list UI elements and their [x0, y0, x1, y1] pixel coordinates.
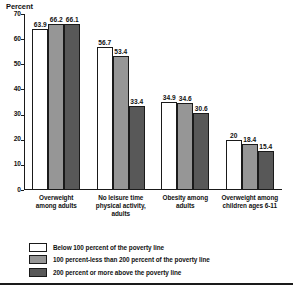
y-axis-tick-mark	[21, 89, 24, 90]
bar-group: 63.966.266.1	[32, 14, 80, 190]
y-axis-tick-label: 50	[14, 60, 21, 68]
bar[interactable]: 63.9	[32, 29, 48, 190]
x-axis-category-label: Overweightamong adults	[24, 194, 89, 210]
footer-rule	[0, 283, 293, 285]
bar-value-label: 34.9	[163, 94, 176, 102]
x-axis-category-label-line: among adults	[24, 202, 89, 210]
y-axis-line	[24, 14, 25, 190]
bar[interactable]: 34.9	[161, 102, 177, 190]
x-axis-category-label-line: No leisure time	[89, 194, 154, 202]
x-axis-category-label-line: Obesity among	[153, 194, 218, 202]
bar[interactable]: 18.4	[242, 144, 258, 190]
y-axis-tick-label: 70	[14, 10, 21, 18]
bar-value-label: 56.7	[98, 39, 111, 47]
x-axis-category-label: Overweight amongchildren ages 6-11	[218, 194, 283, 210]
bar-group-bars: 34.934.630.6	[161, 14, 209, 190]
y-axis-tick-label: 60	[14, 35, 21, 43]
bar-value-label: 66.2	[50, 16, 63, 24]
x-axis-category-label-line: physical activity,	[89, 202, 154, 210]
x-axis-category-label-line: Overweight among	[218, 194, 283, 202]
legend-label: 200 percent or more above the poverty li…	[53, 269, 181, 276]
bar-value-label: 33.4	[130, 98, 143, 106]
bar-value-label: 15.4	[259, 143, 272, 151]
bar-group-bars: 63.966.266.1	[32, 14, 80, 190]
plot-area: 010203040506070 63.966.266.156.753.433.4…	[24, 14, 282, 190]
bar[interactable]: 15.4	[258, 151, 274, 190]
bar-chart: Percent 010203040506070 63.966.266.156.7…	[0, 0, 293, 289]
bar-value-label: 34.6	[179, 95, 192, 103]
chart-legend: Below 100 percent of the poverty line100…	[29, 241, 264, 279]
bar-value-label: 66.1	[66, 16, 79, 24]
y-axis-tick-label: 10	[14, 160, 21, 168]
x-axis-category-label: Obesity amongadults	[153, 194, 218, 210]
legend-item[interactable]: 100 percent-less than 200 percent of the…	[29, 254, 264, 267]
bar[interactable]: 34.6	[177, 103, 193, 190]
bar-group: 2018.415.4	[226, 14, 274, 190]
bar-group: 34.934.630.6	[161, 14, 209, 190]
bar-group: 56.753.433.4	[97, 14, 145, 190]
x-axis-category-labels: Overweightamong adultsNo leisure timephy…	[24, 194, 282, 220]
y-axis-tick-label: 0	[17, 186, 21, 194]
y-axis-tick-label: 20	[14, 135, 21, 143]
y-axis-tick-mark	[21, 140, 24, 141]
bar-value-label: 53.4	[114, 48, 127, 56]
x-axis-category-label-line: adults	[89, 210, 154, 218]
bar[interactable]: 33.4	[129, 106, 145, 190]
legend-item[interactable]: Below 100 percent of the poverty line	[29, 241, 264, 254]
bar-value-label: 63.9	[34, 21, 47, 29]
bar-group-bars: 2018.415.4	[226, 14, 274, 190]
x-axis-category-label-line: adults	[153, 202, 218, 210]
y-axis-tick-mark	[21, 165, 24, 166]
y-axis-tick-label: 40	[14, 85, 21, 93]
y-axis-tick-mark	[21, 115, 24, 116]
x-axis-category-label: No leisure timephysical activity,adults	[89, 194, 154, 219]
bar[interactable]: 30.6	[193, 113, 209, 190]
legend-swatch	[29, 268, 47, 277]
bar[interactable]: 20	[226, 140, 242, 190]
legend-swatch	[29, 243, 47, 252]
legend-label: Below 100 percent of the poverty line	[53, 244, 164, 251]
bar-value-label: 18.4	[243, 136, 256, 144]
bar-group-bars: 56.753.433.4	[97, 14, 145, 190]
bar[interactable]: 56.7	[97, 47, 113, 190]
bar[interactable]: 53.4	[113, 56, 129, 190]
x-axis-category-label-line: Overweight	[24, 194, 89, 202]
bar[interactable]: 66.1	[64, 24, 80, 190]
legend-label: 100 percent-less than 200 percent of the…	[53, 256, 210, 263]
y-axis-tick-mark	[21, 190, 24, 191]
bar-value-label: 20	[230, 132, 237, 140]
y-axis-tick-mark	[21, 64, 24, 65]
bar[interactable]: 66.2	[48, 24, 64, 190]
y-axis-tick-mark	[21, 39, 24, 40]
y-axis-tick-label: 30	[14, 110, 21, 118]
bar-value-label: 30.6	[195, 105, 208, 113]
legend-item[interactable]: 200 percent or more above the poverty li…	[29, 266, 264, 279]
y-axis-tick-mark	[21, 14, 24, 15]
legend-swatch	[29, 255, 47, 264]
x-axis-category-label-line: children ages 6-11	[218, 202, 283, 210]
